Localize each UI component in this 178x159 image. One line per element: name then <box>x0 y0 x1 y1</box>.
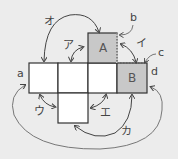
edge-label-b: b <box>130 12 137 23</box>
face-bottom <box>58 93 88 123</box>
pointer-b <box>120 25 133 35</box>
arrow-label-u: ウ <box>34 106 45 117</box>
arrow-label-i: イ <box>136 38 147 49</box>
edge-label-c: c <box>158 47 164 58</box>
arrow-label-o: オ <box>44 16 55 27</box>
face-2 <box>58 63 88 93</box>
pointer-c <box>145 54 156 62</box>
arrow-label-e: エ <box>100 107 111 118</box>
arrow-label-a: ア <box>63 40 74 51</box>
face-b-label: B <box>126 72 138 84</box>
edge-label-a: a <box>17 68 24 79</box>
arrow-i <box>121 44 136 62</box>
face-3 <box>88 63 117 93</box>
arrow-label-ka: カ <box>121 126 132 137</box>
face-a-label: A <box>97 42 109 54</box>
face-1 <box>29 63 58 93</box>
edge-label-d: d <box>151 66 158 77</box>
cube-net-diagram <box>0 0 178 159</box>
